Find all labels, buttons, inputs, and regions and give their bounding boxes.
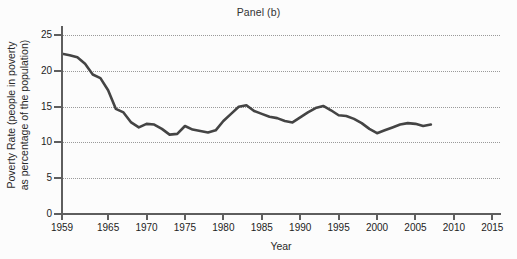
chart-figure: Panel (b) 0510152025 1959196519701975198… xyxy=(0,0,517,259)
x-tick-label-1985: 1985 xyxy=(242,222,282,233)
y-tick-5 xyxy=(54,177,62,179)
x-tick-1970 xyxy=(146,214,148,220)
x-axis-title: Year xyxy=(62,240,500,252)
chart-title: Panel (b) xyxy=(0,6,517,18)
y-tick-label-0: 0 xyxy=(18,208,52,219)
x-tick-label-2005: 2005 xyxy=(395,222,435,233)
x-tick-label-2015: 2015 xyxy=(472,222,512,233)
x-tick-1995 xyxy=(338,214,340,220)
x-tick-label-1995: 1995 xyxy=(319,222,359,233)
x-tick-1980 xyxy=(222,214,224,220)
x-tick-2010 xyxy=(453,214,455,220)
x-tick-2005 xyxy=(414,214,416,220)
y-tick-15 xyxy=(54,106,62,108)
x-tick-2000 xyxy=(376,214,378,220)
x-tick-1965 xyxy=(107,214,109,220)
series-line-poverty-rate xyxy=(62,28,500,214)
x-tick-label-1980: 1980 xyxy=(203,222,243,233)
x-tick-label-1990: 1990 xyxy=(280,222,320,233)
x-tick-label-1975: 1975 xyxy=(165,222,205,233)
x-tick-2015 xyxy=(491,214,493,220)
x-axis-line xyxy=(61,213,501,215)
y-tick-10 xyxy=(54,141,62,143)
x-tick-1985 xyxy=(261,214,263,220)
x-tick-label-1965: 1965 xyxy=(88,222,128,233)
x-tick-label-1970: 1970 xyxy=(127,222,167,233)
x-tick-label-1959: 1959 xyxy=(42,222,82,233)
x-tick-1959 xyxy=(61,214,63,220)
plot-area xyxy=(62,28,500,214)
x-tick-label-2000: 2000 xyxy=(357,222,397,233)
x-tick-1975 xyxy=(184,214,186,220)
x-tick-1990 xyxy=(299,214,301,220)
y-tick-20 xyxy=(54,70,62,72)
y-axis-line xyxy=(61,26,63,215)
x-tick-label-2010: 2010 xyxy=(434,222,474,233)
y-tick-25 xyxy=(54,34,62,36)
y-axis-title: Poverty Rate (people in poverty as perce… xyxy=(5,22,31,208)
